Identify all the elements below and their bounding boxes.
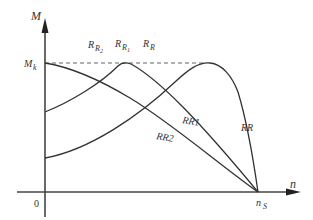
svg-text:k: k: [33, 63, 37, 72]
svg-text:S: S: [263, 202, 267, 211]
torque-speed-diagram: M n 0 M k n S R R 2 R R 1 R R RR1 RR2 RR: [0, 0, 313, 220]
svg-text:n: n: [256, 197, 261, 208]
curve-label-rr: RR: [240, 122, 253, 133]
curve-rr: [45, 63, 258, 192]
top-label-rr1: R R 1: [114, 38, 130, 53]
svg-text:2: 2: [100, 48, 103, 54]
svg-text:R: R: [114, 38, 121, 49]
svg-text:1: 1: [127, 47, 130, 53]
y-axis-label: M: [30, 9, 42, 23]
ns-label: n S: [256, 197, 267, 211]
top-label-rr2: R R 2: [87, 39, 103, 54]
origin-label: 0: [34, 198, 39, 209]
y-axis-arrow-icon: [42, 18, 49, 33]
curve-label-rr1: RR1: [181, 114, 201, 128]
svg-text:R: R: [149, 43, 155, 52]
x-axis-label: n: [290, 177, 296, 191]
svg-text:R: R: [142, 38, 149, 49]
curve-label-rr2: RR2: [155, 130, 175, 144]
svg-text:M: M: [23, 58, 33, 69]
curve-rr1: [45, 63, 258, 192]
mk-label: M k: [23, 58, 37, 72]
svg-text:R: R: [87, 39, 94, 50]
top-label-rr: R R: [142, 38, 155, 52]
curve-rr2: [45, 63, 258, 192]
